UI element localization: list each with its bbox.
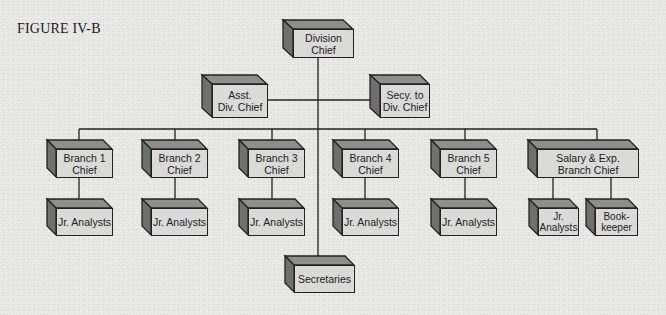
node-label: Branch 1 [63, 152, 105, 164]
node-label: Book- [603, 211, 629, 222]
node-jr-analysts-4: Jr. Analysts [333, 199, 399, 236]
node-label: Jr. Analysts [250, 216, 303, 228]
node-jr-analysts-salary: Jr. Analysts [529, 199, 579, 236]
node-label: Branch 4 [349, 152, 391, 164]
node-label: Chief [264, 164, 289, 176]
node-label: Chief [311, 44, 336, 56]
node-label: Secy. to [386, 89, 423, 101]
node-label: keeper [601, 222, 632, 233]
node-secy-div-chief: Secy. to Div. Chief [370, 75, 430, 118]
node-label: Secretaries [298, 273, 351, 285]
node-label: Jr. Analysts [344, 216, 397, 228]
node-branch-1-chief: Branch 1 Chief [47, 140, 113, 178]
node-label: Div. Chief [218, 101, 263, 113]
node-branch-3-chief: Branch 3 Chief [239, 140, 305, 178]
node-label: Chief [72, 164, 97, 176]
node-label: Chief [358, 164, 383, 176]
node-label: Branch 2 [158, 152, 200, 164]
node-label: Jr. Analysts [153, 216, 206, 228]
node-branch-4-chief: Branch 4 Chief [333, 140, 399, 178]
node-label: Division [305, 32, 342, 44]
node-label: Jr. [553, 211, 564, 222]
node-label: Branch Chief [558, 164, 619, 176]
node-division-chief: Division Chief [283, 20, 354, 58]
node-jr-analysts-3: Jr. Analysts [239, 199, 305, 236]
node-secretaries: Secretaries [285, 256, 355, 293]
node-salary-exp-branch-chief: Salary & Exp. Branch Chief [528, 140, 639, 178]
node-label: Jr. Analysts [442, 216, 495, 228]
node-bookkeeper: Book- keeper [586, 199, 638, 236]
node-jr-analysts-2: Jr. Analysts [142, 199, 208, 236]
node-label: Chief [456, 164, 481, 176]
node-asst-div-chief: Asst. Div. Chief [202, 75, 268, 118]
node-label: Analysts [540, 222, 578, 233]
node-label: Salary & Exp. [556, 152, 620, 164]
node-label: Asst. [228, 89, 251, 101]
node-label: Div. Chief [383, 101, 428, 113]
node-label: Jr. Analysts [58, 216, 111, 228]
node-label: Branch 3 [255, 152, 297, 164]
node-label: Chief [167, 164, 192, 176]
node-branch-5-chief: Branch 5 Chief [431, 140, 497, 178]
node-jr-analysts-5: Jr. Analysts [431, 199, 497, 236]
node-jr-analysts-1: Jr. Analysts [47, 199, 113, 236]
node-label: Branch 5 [447, 152, 489, 164]
node-branch-2-chief: Branch 2 Chief [142, 140, 208, 178]
